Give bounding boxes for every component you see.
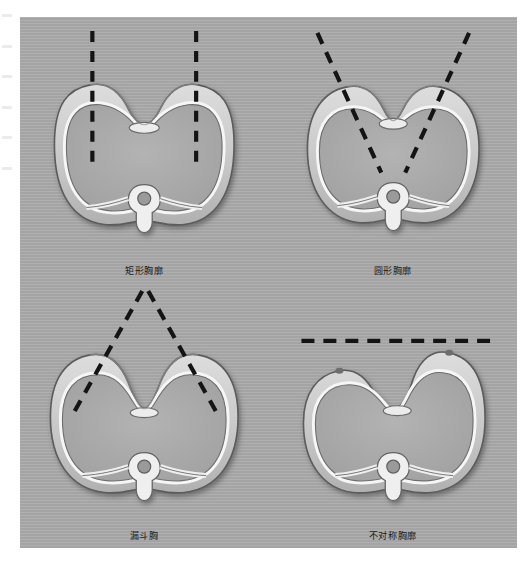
spinal-canal (386, 460, 399, 473)
panel-asymmetric-thorax: 不对称胸廓 (269, 283, 518, 549)
panel-grid: 矩形胸廓 (20, 17, 517, 548)
edge-mark (2, 136, 12, 143)
caption-rectangular-thorax: 矩形胸廓 (20, 265, 269, 277)
spinal-canal (138, 460, 151, 473)
edge-mark (2, 45, 12, 52)
round-thorax-illustration (269, 17, 518, 257)
spinal-canal (138, 192, 151, 205)
right-nipple-marker (445, 349, 453, 355)
funnel-chest-illustration (20, 283, 269, 523)
sternum (383, 405, 411, 415)
caption-round-thorax: 圆形胸廓 (269, 265, 518, 277)
rectangular-thorax-illustration (20, 17, 269, 257)
panel-funnel-chest: 漏斗胸 (20, 283, 269, 549)
sternum (129, 122, 159, 133)
panel-rectangular-thorax: 矩形胸廓 (20, 17, 269, 283)
caption-funnel-chest: 漏斗胸 (20, 530, 269, 542)
spinal-canal (386, 190, 399, 203)
asymmetric-thorax-illustration (269, 283, 518, 523)
page-edge-marginalia (2, 14, 12, 174)
thorax-shapes-figure: 矩形胸廓 (20, 17, 517, 548)
edge-mark (2, 167, 12, 174)
panel-round-thorax: 圆形胸廓 (269, 17, 518, 283)
caption-asymmetric-thorax: 不对称胸廓 (269, 530, 518, 542)
left-nipple-marker (335, 367, 343, 373)
edge-mark (2, 106, 12, 113)
sternum (379, 118, 407, 129)
edge-mark (2, 75, 12, 82)
edge-mark (2, 14, 12, 21)
